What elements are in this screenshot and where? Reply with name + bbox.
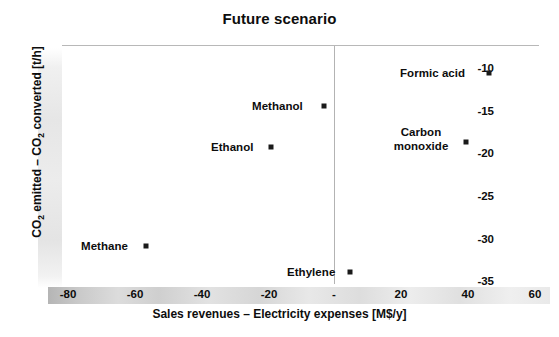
data-point-label-carbon-monoxide: Carbon monoxide [383, 126, 459, 153]
chart-figure: Future scenario -10 -15 -20 -25 -30 -35 … [0, 0, 559, 337]
x-tick-label: 60 [513, 288, 557, 300]
carbon-monoxide-label-line-1: Carbon [383, 126, 459, 140]
data-point-label-ethylene: Ethylene [287, 266, 335, 279]
data-point-label-formic-acid: Formic acid [400, 67, 465, 80]
x-tick-label: - [312, 288, 356, 300]
data-point-label-ethanol: Ethanol [211, 141, 254, 154]
y-axis-title-text-c: converted [t/h] [30, 46, 44, 133]
x-tick-label: -60 [113, 288, 157, 300]
x-tick-label: -80 [46, 288, 90, 300]
data-point-ethanol[interactable] [269, 145, 274, 150]
x-tick-label: -20 [247, 288, 291, 300]
x-tick-label: 40 [446, 288, 490, 300]
carbon-monoxide-label-line-2: monoxide [383, 140, 459, 154]
data-point-label-methane: Methane [81, 240, 128, 253]
data-point-label-methanol: Methanol [252, 100, 303, 113]
y-axis-title-sub-1: 2 [36, 215, 46, 220]
y-axis-title-text-a: CO [30, 220, 44, 238]
x-axis-title: Sales revenues – Electricity expenses [M… [0, 307, 559, 321]
y-axis-title-text-b: emitted – CO [30, 138, 44, 215]
chart-title: Future scenario [0, 10, 559, 27]
data-point-methane[interactable] [144, 244, 149, 249]
y-axis-title-sub-2: 2 [36, 133, 46, 138]
data-point-ethylene[interactable] [348, 270, 353, 275]
data-point-formic-acid[interactable] [487, 71, 492, 76]
plot-area: Formic acid Carbon monoxide Methanol Eth… [62, 45, 539, 283]
y-axis-title: CO2 emitted – CO2 converted [t/h] [30, 17, 44, 267]
x-tick-label: 20 [379, 288, 423, 300]
data-point-carbon-monoxide[interactable] [464, 140, 469, 145]
x-tick-label: -40 [180, 288, 224, 300]
zero-gridline [334, 46, 335, 284]
data-point-methanol[interactable] [322, 104, 327, 109]
